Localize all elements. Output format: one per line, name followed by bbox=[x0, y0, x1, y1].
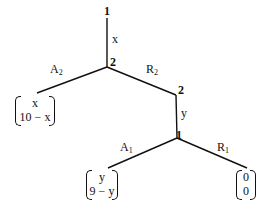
edge-label-accept-2: A2 bbox=[50, 63, 63, 79]
edge-label-reject-2: R2 bbox=[146, 63, 158, 79]
edge-label-y: y bbox=[181, 107, 187, 119]
payoff-vector-R1: 0 0 bbox=[236, 170, 256, 200]
right-bracket bbox=[112, 170, 118, 200]
payoff-vector-A2: x 10 − x bbox=[15, 96, 55, 126]
left-bracket bbox=[15, 96, 21, 126]
payoff-vector-A1: y 9 − y bbox=[86, 170, 118, 200]
node-root-player: 1 bbox=[104, 5, 110, 17]
node-2-player: 2 bbox=[110, 56, 116, 68]
right-bracket bbox=[49, 96, 55, 126]
edge-label-x: x bbox=[112, 33, 118, 45]
edge-label-accept-1: A1 bbox=[120, 141, 133, 157]
edge-label-reject-1: R1 bbox=[217, 141, 229, 157]
node-4-player: 1 bbox=[176, 129, 182, 141]
node-3-player: 2 bbox=[178, 84, 184, 96]
right-bracket bbox=[250, 170, 256, 200]
left-bracket bbox=[86, 170, 92, 200]
left-bracket bbox=[236, 170, 242, 200]
